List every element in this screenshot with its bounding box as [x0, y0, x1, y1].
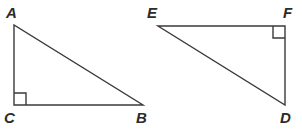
vertex-label-a: A	[6, 5, 17, 20]
triangle-acb	[14, 25, 143, 105]
vertex-label-b: B	[136, 110, 147, 125]
vertex-label-e: E	[147, 5, 157, 20]
triangle-efd-outline	[158, 26, 285, 105]
vertex-label-f: F	[283, 5, 292, 20]
triangle-acb-outline	[14, 25, 143, 105]
right-angle-marker-c	[14, 93, 26, 105]
right-angle-marker-f	[273, 26, 285, 38]
vertex-label-c: C	[4, 110, 15, 125]
vertex-label-d: D	[280, 110, 291, 125]
triangle-efd	[158, 26, 285, 105]
